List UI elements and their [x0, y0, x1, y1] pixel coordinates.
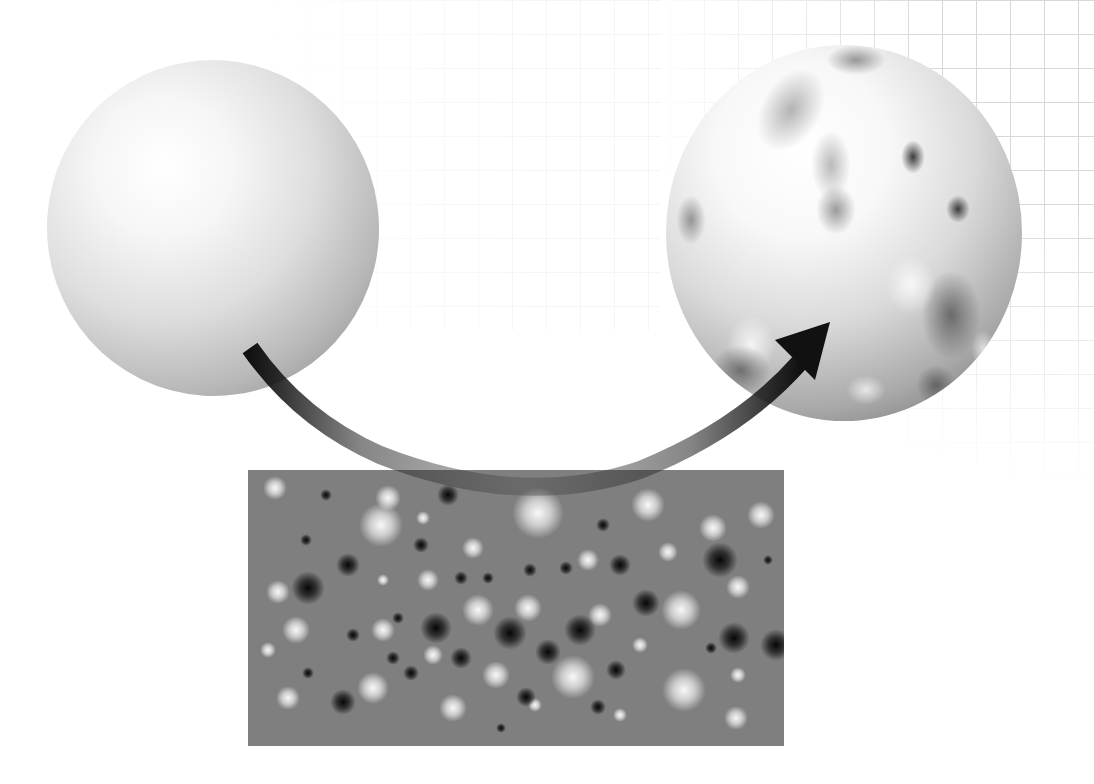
transform-arrow [0, 0, 1094, 784]
arrow-shaft [250, 348, 800, 487]
